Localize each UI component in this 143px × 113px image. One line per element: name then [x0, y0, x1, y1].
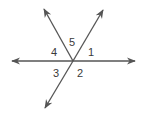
angle-label-1: 1 [88, 46, 94, 58]
ray-upper-left [44, 9, 73, 61]
angle-label-4: 4 [51, 46, 57, 58]
angle-label-5: 5 [69, 36, 75, 48]
angle-label-3: 3 [53, 67, 59, 79]
intersecting-lines-diagram: 51432 [0, 0, 143, 113]
angle-label-2: 2 [77, 67, 83, 79]
